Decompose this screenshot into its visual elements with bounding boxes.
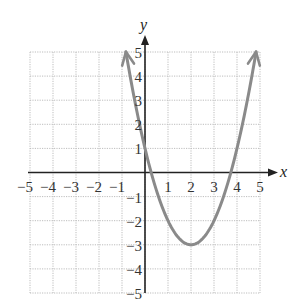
y-tick-label: −2 [126,214,142,230]
x-axis-label: x [279,163,287,180]
y-tick-label: −4 [126,262,142,278]
x-tick-label: 4 [233,179,241,195]
x-tick-label: −2 [86,179,102,195]
x-tick-label: 1 [164,179,172,195]
x-tick-label: 2 [187,179,195,195]
axes [28,35,278,293]
y-tick-label: 3 [135,93,143,109]
y-axis-arrow-icon [141,35,149,45]
y-tick-label: 5 [135,45,143,61]
y-tick-labels: 54321−1−2−3−4−5 [126,45,142,302]
y-tick-label: −3 [126,238,142,254]
x-tick-label: 5 [256,179,264,195]
y-tick-label: 1 [135,141,143,157]
x-tick-label: −3 [63,179,79,195]
x-tick-label: −1 [109,179,125,195]
y-tick-label: 2 [135,117,143,133]
x-axis-arrow-icon [268,169,278,177]
y-tick-label: 4 [135,69,143,85]
x-tick-label: −5 [17,179,33,195]
y-tick-label: −1 [126,190,142,206]
x-tick-label: −4 [40,179,56,195]
y-tick-label: −5 [126,286,142,302]
function-graph: −5−4−3−2−112345 54321−1−2−3−4−5 x y [0,0,290,304]
y-axis-label: y [138,16,148,34]
x-tick-label: 3 [210,179,218,195]
